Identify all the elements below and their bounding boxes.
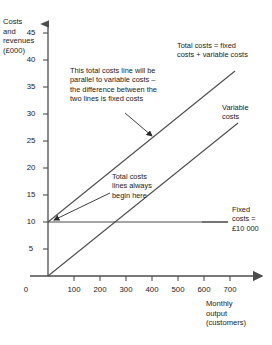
y-tick-label-10: 10 bbox=[22, 217, 40, 226]
x-tick-label-600: 600 bbox=[194, 285, 214, 294]
parallel-note-line-3: the difference between the bbox=[70, 85, 157, 94]
total-costs-formula-line-2: costs + variable costs bbox=[177, 50, 248, 59]
y-axis-title-line-4: (£000) bbox=[3, 46, 34, 56]
x-tick-label-100: 100 bbox=[64, 285, 84, 294]
x-tick-label-400: 400 bbox=[142, 285, 162, 294]
total-costs-formula-line-1: Total costs = fixed bbox=[177, 41, 248, 50]
y-axis-title-line-3: revenues bbox=[3, 36, 34, 46]
fixed-costs-label-line-3: £10 000 bbox=[232, 224, 259, 233]
y-tick-label-25: 25 bbox=[22, 136, 40, 145]
cost-chart: Costs and revenues (£000) 45 40 35 30 25… bbox=[0, 0, 272, 345]
begin-here-line-1: Total costs bbox=[112, 172, 152, 181]
x-tick-label-300: 300 bbox=[116, 285, 136, 294]
x-axis-title-line-1: Monthly bbox=[206, 299, 246, 309]
parallel-note-leader bbox=[125, 113, 152, 136]
fixed-costs-label-line-2: costs = bbox=[232, 214, 259, 223]
x-tick-label-0: 0 bbox=[18, 285, 34, 294]
fixed-costs-label-line-1: Fixed bbox=[232, 205, 259, 214]
variable-costs-label-line-2: costs bbox=[222, 112, 249, 121]
begin-here-line-3: begin here bbox=[112, 191, 152, 200]
begin-here-leader bbox=[54, 193, 110, 220]
x-axis-ticks bbox=[74, 276, 230, 281]
parallel-note-line-4: two lines is fixed costs bbox=[70, 94, 157, 103]
y-axis-ticks bbox=[43, 33, 48, 249]
x-axis-title-line-2: output bbox=[206, 309, 246, 319]
y-tick-label-20: 20 bbox=[22, 163, 40, 172]
y-tick-label-40: 40 bbox=[22, 55, 40, 64]
x-tick-label-500: 500 bbox=[168, 285, 188, 294]
callout-total-costs-formula: Total costs = fixed costs + variable cos… bbox=[177, 41, 248, 60]
callout-parallel-note: This total costs line will be parallel t… bbox=[70, 66, 157, 103]
parallel-note-line-1: This total costs line will be bbox=[70, 66, 157, 75]
callout-fixed-costs: Fixed costs = £10 000 bbox=[232, 205, 259, 233]
y-axis-title-line-1: Costs bbox=[3, 17, 34, 27]
y-tick-label-15: 15 bbox=[22, 190, 40, 199]
x-tick-label-200: 200 bbox=[90, 285, 110, 294]
x-axis-title-line-3: (customers) bbox=[206, 318, 246, 328]
y-tick-label-5: 5 bbox=[22, 244, 40, 253]
parallel-note-line-2: parallel to variable costs – bbox=[70, 75, 157, 84]
x-axis-title: Monthly output (customers) bbox=[206, 299, 246, 328]
callout-begin-here: Total costs lines always begin here bbox=[112, 172, 152, 200]
begin-here-line-2: lines always bbox=[112, 181, 152, 190]
y-tick-label-45: 45 bbox=[22, 28, 40, 37]
y-tick-label-30: 30 bbox=[22, 109, 40, 118]
x-tick-label-700: 700 bbox=[220, 285, 240, 294]
y-tick-label-35: 35 bbox=[22, 82, 40, 91]
callout-variable-costs: Variable costs bbox=[222, 103, 249, 122]
variable-costs-label-line-1: Variable bbox=[222, 103, 249, 112]
